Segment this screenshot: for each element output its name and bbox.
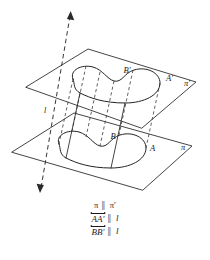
label-upper-point-b: B′: [123, 65, 130, 75]
caption-row-planes: π ∥ π′: [0, 199, 210, 212]
caption-line-l-2: l: [116, 214, 119, 223]
caption-parallel-symbol-1: ∥: [101, 201, 107, 210]
caption-parallel-symbol-2: ∥: [107, 214, 113, 223]
caption-pi-left: π: [94, 201, 98, 210]
geometry-figure: B′ A′ π′ B A π l π ∥ π′ AA′ ∥ l BB′ ∥: [0, 0, 210, 260]
caption-row-aa: AA′ ∥ l: [0, 212, 210, 225]
upper-plane-group: [26, 49, 196, 128]
figure-caption: π ∥ π′ AA′ ∥ l BB′ ∥ l: [0, 199, 210, 238]
caption-parallel-symbol-3: ∥: [107, 227, 113, 236]
caption-segment-aa-text: AA′: [92, 214, 105, 224]
caption-segment-bb: BB′: [92, 226, 105, 237]
caption-pi-right: π′: [110, 201, 116, 210]
caption-line-l-3: l: [116, 227, 119, 236]
label-upper-point-a: A′: [165, 73, 173, 83]
caption-arrow-left-bb: [90, 225, 92, 227]
lower-plane-group: [12, 113, 192, 190]
arrow-head-top: [67, 11, 74, 20]
caption-row-bb: BB′ ∥ l: [0, 225, 210, 238]
caption-arrow-left-aa: [90, 212, 92, 214]
label-upper-plane: π′: [184, 78, 190, 88]
label-transversal-line: l: [44, 106, 47, 115]
arrow-head-bottom: [37, 184, 44, 193]
label-lower-point-b: B: [110, 131, 115, 141]
label-lower-plane: π: [181, 142, 186, 152]
label-lower-point-a: A: [149, 143, 156, 153]
caption-segment-bb-text: BB′: [92, 227, 105, 237]
upper-plane-face: [26, 49, 196, 128]
caption-segment-aa: AA′: [92, 213, 105, 224]
